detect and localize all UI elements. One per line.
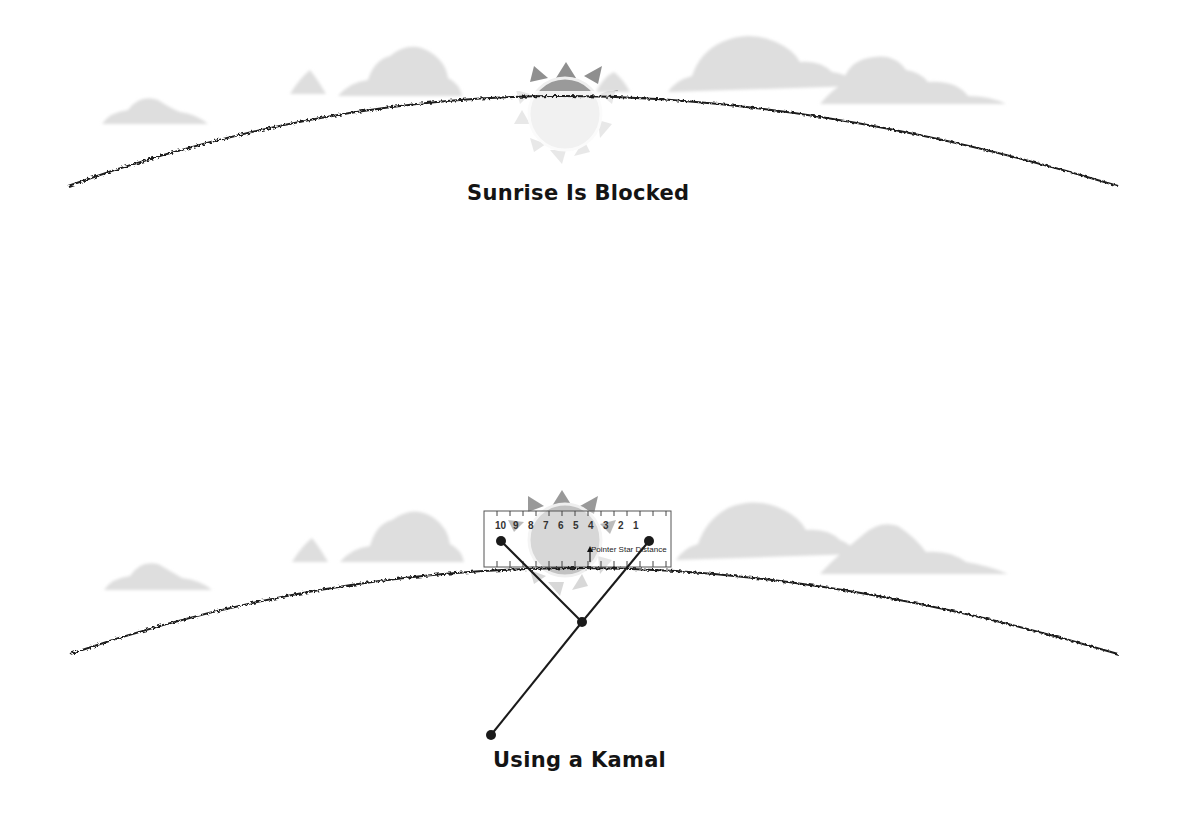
ruler-tick-6: 6 — [558, 520, 564, 531]
cloud-icon — [104, 563, 212, 590]
cloud-icon — [290, 70, 326, 94]
knot-eye-icon — [486, 730, 496, 740]
cloud-icon — [676, 502, 856, 560]
cloud-icon — [820, 524, 1008, 574]
horizon-line-bottom — [70, 568, 1118, 654]
cloud-icon — [340, 511, 464, 562]
ruler-tick-10: 10 — [495, 520, 507, 531]
cloud-icon — [596, 72, 630, 92]
ruler-tick-2: 2 — [618, 520, 624, 531]
knot-junction-icon — [577, 617, 587, 627]
caption-sunrise-blocked: Sunrise Is Blocked — [467, 181, 689, 205]
knot-right-icon — [644, 536, 654, 546]
cloud-icon — [292, 538, 328, 562]
knot-left-icon — [496, 536, 506, 546]
ruler-tick-8: 8 — [528, 520, 534, 531]
ruler-tick-4: 4 — [588, 520, 594, 531]
cloud-icon — [668, 36, 856, 92]
ruler-tick-9: 9 — [513, 520, 519, 531]
ruler-tick-7: 7 — [543, 520, 549, 531]
caption-using-kamal: Using a Kamal — [493, 748, 666, 772]
cloud-icon — [820, 57, 1006, 105]
panel-top — [68, 36, 1118, 186]
ruler-tick-3: 3 — [603, 520, 609, 531]
cloud-icon — [338, 47, 462, 96]
illustration: 10 9 8 7 6 5 4 3 2 1 Pointer Star Distan… — [0, 0, 1183, 820]
ruler-tick-1: 1 — [633, 520, 639, 531]
pointer-star-distance-label: Pointer Star Distance — [591, 545, 667, 554]
ruler-tick-5: 5 — [573, 520, 579, 531]
cloud-icon — [102, 98, 208, 124]
kamal-ruler: 10 9 8 7 6 5 4 3 2 1 Pointer Star Distan… — [484, 511, 671, 567]
panel-bottom: 10 9 8 7 6 5 4 3 2 1 Pointer Star Distan… — [70, 490, 1118, 740]
diagram-canvas: 10 9 8 7 6 5 4 3 2 1 Pointer Star Distan… — [0, 0, 1183, 820]
